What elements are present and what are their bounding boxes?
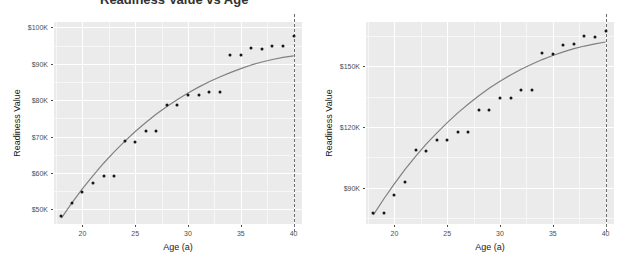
gridline-y-minor (366, 218, 614, 219)
gridline-y-minor (54, 155, 302, 156)
y-axis-tick-mark (363, 188, 365, 189)
y-axis-tick-mark (51, 137, 53, 138)
data-point (271, 45, 274, 48)
data-point (218, 90, 221, 93)
y-axis-tick-label: $150K (340, 63, 360, 70)
data-point (425, 150, 428, 153)
gridline-x-minor (368, 22, 369, 224)
data-point (604, 30, 607, 33)
data-point (435, 139, 438, 142)
data-point (404, 180, 407, 183)
figure-root: Readiness Value vs Age $50K$60K$70K$80K$… (0, 0, 624, 275)
data-point (499, 96, 502, 99)
y-axis-tick-mark (363, 66, 365, 67)
data-point (134, 140, 137, 143)
y-axis-tick-label: $100K (28, 24, 48, 31)
data-point (113, 174, 116, 177)
x-axis-title: Age (a) (54, 242, 302, 252)
y-axis-tick-label: $70K (32, 133, 48, 140)
data-point (187, 93, 190, 96)
y-axis-tick-label: $120K (340, 124, 360, 131)
data-point (197, 94, 200, 97)
data-point (81, 190, 84, 193)
y-axis-tick-mark (51, 27, 53, 28)
gridline-y-major (54, 173, 302, 174)
x-axis-tick-mark (135, 225, 136, 227)
gridline-x-minor (579, 22, 580, 224)
data-point (229, 53, 232, 56)
gridline-x-major (500, 22, 501, 224)
plot-area-background (54, 22, 302, 224)
data-point (541, 52, 544, 55)
data-point (92, 181, 95, 184)
data-point (477, 108, 480, 111)
data-point (155, 130, 158, 133)
gridline-y-minor (54, 118, 302, 119)
y-axis-tick-mark (363, 127, 365, 128)
gridline-y-minor (366, 97, 614, 98)
data-point (260, 47, 263, 50)
data-point (382, 211, 385, 214)
data-point (551, 53, 554, 56)
data-point (144, 130, 147, 133)
data-point (102, 174, 105, 177)
gridline-y-major (366, 188, 614, 189)
x-axis-tick-label: 30 (184, 230, 192, 237)
x-axis-tick-label: 25 (131, 230, 139, 237)
y-axis-tick-label: $60K (32, 170, 48, 177)
data-point (530, 88, 533, 91)
data-point (123, 140, 126, 143)
gridline-x-major (188, 22, 189, 224)
x-axis-tick-label: 30 (496, 230, 504, 237)
gridline-x-minor (526, 22, 527, 224)
gridline-x-minor (421, 22, 422, 224)
gridline-y-major (54, 209, 302, 210)
gridline-y-major (366, 127, 614, 128)
data-point (60, 214, 63, 217)
y-axis-tick-mark (51, 209, 53, 210)
gridline-y-minor (54, 46, 302, 47)
gridline-x-minor (214, 22, 215, 224)
y-axis-tick-mark (51, 100, 53, 101)
y-axis-title: Readiness Value (324, 22, 334, 224)
x-axis-tick-mark (447, 225, 448, 227)
data-point (583, 35, 586, 38)
data-point (282, 44, 285, 47)
x-axis-tick-label: 25 (443, 230, 451, 237)
data-point (165, 104, 168, 107)
x-axis-title: Age (a) (366, 242, 614, 252)
gridline-x-minor (162, 22, 163, 224)
data-point (572, 43, 575, 46)
gridline-x-major (447, 22, 448, 224)
data-point (239, 53, 242, 56)
data-point (70, 201, 73, 204)
gridline-y-minor (366, 36, 614, 37)
data-point (594, 36, 597, 39)
gridline-x-minor (474, 22, 475, 224)
gridline-y-major (366, 66, 614, 67)
x-axis-tick-mark (394, 225, 395, 227)
gridline-y-major (54, 64, 302, 65)
gridline-y-major (54, 100, 302, 101)
gridline-y-minor (54, 82, 302, 83)
data-point (488, 108, 491, 111)
data-point (414, 149, 417, 152)
x-axis-tick-label: 35 (549, 230, 557, 237)
data-point (176, 104, 179, 107)
data-point (562, 44, 565, 47)
x-axis-tick-mark (82, 225, 83, 227)
gridline-x-major (82, 22, 83, 224)
reference-line-age-40 (606, 14, 607, 232)
x-axis-tick-mark (553, 225, 554, 227)
data-point (292, 35, 295, 38)
x-axis-tick-label: 20 (79, 230, 87, 237)
data-point (208, 90, 211, 93)
gridline-y-minor (366, 157, 614, 158)
chart-panel-left: $50K$60K$70K$80K$90K$100K2025303540Age (… (0, 0, 312, 275)
x-axis-tick-mark (188, 225, 189, 227)
x-axis-tick-label: 35 (237, 230, 245, 237)
y-axis-tick-label: $90K (344, 184, 360, 191)
y-axis-tick-label: $80K (32, 97, 48, 104)
gridline-y-major (54, 137, 302, 138)
data-point (509, 96, 512, 99)
